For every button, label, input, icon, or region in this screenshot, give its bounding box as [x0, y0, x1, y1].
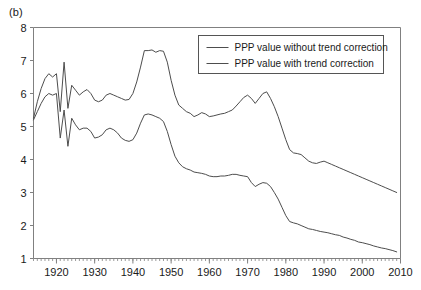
x-tick-label: 1920	[44, 266, 68, 278]
y-tick-label: 2	[20, 220, 26, 232]
y-tick-label: 5	[20, 121, 26, 133]
x-tick-label: 2000	[350, 266, 374, 278]
data-series-group	[34, 50, 397, 252]
series-line-2	[34, 94, 397, 252]
y-tick-label: 1	[20, 253, 26, 265]
y-tick-label: 8	[20, 22, 26, 34]
x-tick-label: 1950	[159, 266, 183, 278]
x-tick-label: 1990	[312, 266, 336, 278]
x-axis: 1920193019401950196019701980199020002010	[34, 259, 413, 278]
x-tick-label: 1980	[274, 266, 298, 278]
y-tick-label: 7	[20, 55, 26, 67]
x-tick-label: 2010	[388, 266, 412, 278]
x-tick-label: 1930	[82, 266, 106, 278]
legend-label: PPP value with trend correction	[235, 58, 374, 69]
y-tick-label: 4	[20, 154, 26, 166]
chart-figure: (b) 12345678 192019301940195019601970198…	[0, 0, 421, 290]
x-tick-label: 1960	[197, 266, 221, 278]
y-tick-label: 6	[20, 88, 26, 100]
y-axis: 12345678	[20, 22, 33, 265]
y-tick-label: 3	[20, 187, 26, 199]
line-chart: 12345678 1920193019401950196019701980199…	[0, 0, 421, 290]
x-tick-label: 1940	[121, 266, 145, 278]
legend-label: PPP value without trend correction	[235, 42, 388, 53]
chart-legend: PPP value without trend correctionPPP va…	[199, 36, 388, 74]
x-tick-label: 1970	[235, 266, 259, 278]
